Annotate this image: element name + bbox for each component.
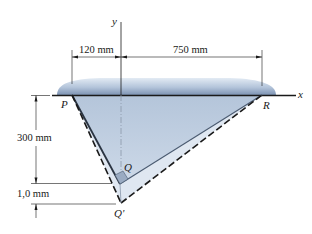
arrow-head: [35, 204, 38, 210]
point-label-p: P: [61, 99, 68, 110]
arrow-head: [121, 56, 127, 59]
original-triangle: [72, 95, 262, 184]
strain-diagram: y x 120 mm 750 mm 300 mm 1,0 mm P R Q Q': [0, 0, 312, 234]
dim-label-120: 120 mm: [79, 45, 114, 56]
x-axis-label: x: [298, 89, 303, 100]
arrow-head: [256, 56, 262, 59]
arrow-head: [35, 96, 38, 102]
point-label-q: Q: [124, 162, 132, 173]
arrow-head: [115, 56, 121, 59]
support-plate: [57, 78, 276, 95]
dim-label-deflection: 1,0 mm: [17, 189, 49, 200]
arrow-head: [35, 178, 38, 184]
dim-label-750: 750 mm: [173, 45, 208, 56]
y-axis-label: y: [112, 16, 117, 27]
arrow-head: [72, 56, 78, 59]
dim-label-300: 300 mm: [17, 133, 52, 144]
point-label-r: R: [263, 100, 270, 111]
point-label-q-prime: Q': [114, 208, 124, 219]
